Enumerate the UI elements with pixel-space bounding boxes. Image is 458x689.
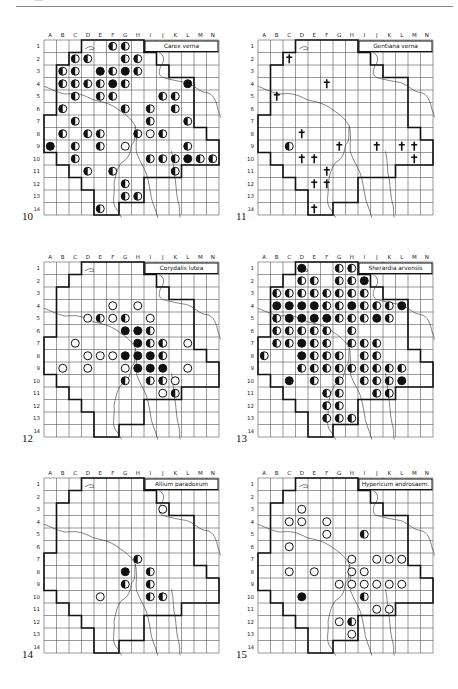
svg-text:2: 2 xyxy=(37,278,41,284)
svg-text:14: 14 xyxy=(248,428,254,434)
species-label: Corydalis lutea xyxy=(160,265,204,272)
half-record-marker xyxy=(310,277,318,285)
distribution-map-allium-paradoxum: ABCDEFGHIJKLMN1234567891011121314Allium … xyxy=(44,469,244,669)
half-record-marker xyxy=(159,593,167,601)
open-record-marker xyxy=(134,302,142,310)
open-record-marker xyxy=(323,530,331,538)
distribution-map-gentiana-verna: ABCDEFGHIJKLMN1234567891011121314Gentian… xyxy=(258,31,458,231)
svg-text:D: D xyxy=(300,470,304,476)
grid-map: ABCDEFGHIJKLMN1234567891011121314Gentian… xyxy=(258,31,438,226)
half-record-marker xyxy=(348,289,356,297)
open-record-marker xyxy=(84,352,92,360)
half-record-marker xyxy=(109,92,117,100)
half-record-marker xyxy=(146,155,154,163)
svg-text:11: 11 xyxy=(247,390,254,396)
distribution-map-carex-verna: ABCDEFGHIJKLMN1234567891011121314Carex v… xyxy=(44,31,244,231)
half-record-marker xyxy=(96,130,104,138)
half-record-marker xyxy=(134,192,142,200)
distribution-map-corydalis-lutea: ABCDEFGHIJKLMN1234567891011121314Corydal… xyxy=(44,253,244,453)
svg-text:11: 11 xyxy=(247,606,254,612)
svg-text:E: E xyxy=(99,254,103,260)
svg-text:K: K xyxy=(387,254,391,260)
species-label: Sherardia arvensis xyxy=(368,265,422,271)
cross-record-marker xyxy=(411,154,417,163)
svg-text:M: M xyxy=(198,32,203,38)
svg-text:C: C xyxy=(73,470,77,476)
full-record-marker xyxy=(373,314,381,322)
species-label: Gentiana verna xyxy=(373,43,418,49)
full-record-marker xyxy=(121,568,129,576)
half-record-marker xyxy=(335,389,343,397)
svg-text:I: I xyxy=(363,32,365,38)
svg-text:N: N xyxy=(425,254,429,260)
open-record-marker xyxy=(109,302,117,310)
full-record-marker xyxy=(273,302,281,310)
svg-text:H: H xyxy=(350,32,354,38)
svg-text:6: 6 xyxy=(37,328,41,334)
svg-text:L: L xyxy=(400,254,404,260)
figure-number: 12 xyxy=(22,432,33,444)
half-record-marker xyxy=(146,568,154,576)
half-record-marker xyxy=(385,377,393,385)
half-record-marker xyxy=(373,352,381,360)
half-record-marker xyxy=(335,289,343,297)
svg-text:12: 12 xyxy=(247,403,254,409)
half-record-marker xyxy=(146,377,154,385)
half-record-marker xyxy=(348,414,356,422)
half-record-marker xyxy=(373,339,381,347)
cross-record-marker xyxy=(311,179,317,188)
open-record-marker xyxy=(385,605,393,613)
svg-text:12: 12 xyxy=(33,181,40,187)
half-record-marker xyxy=(310,377,318,385)
full-record-marker xyxy=(96,67,104,75)
open-record-marker xyxy=(184,364,192,372)
svg-text:D: D xyxy=(86,470,90,476)
distribution-map-hypericum-androsaemum: ABCDEFGHIJKLMN1234567891011121314Hyperic… xyxy=(258,469,458,669)
svg-text:7: 7 xyxy=(251,340,255,346)
svg-text:7: 7 xyxy=(37,118,41,124)
cross-record-marker xyxy=(336,142,342,151)
svg-text:1: 1 xyxy=(251,43,255,49)
svg-text:1: 1 xyxy=(37,481,41,487)
svg-text:3: 3 xyxy=(251,506,255,512)
half-record-marker xyxy=(335,364,343,372)
svg-text:5: 5 xyxy=(251,315,255,321)
svg-text:11: 11 xyxy=(247,168,254,174)
svg-text:9: 9 xyxy=(251,143,255,149)
svg-text:9: 9 xyxy=(251,581,255,587)
svg-text:F: F xyxy=(325,470,328,476)
half-record-marker xyxy=(96,80,104,88)
half-record-marker xyxy=(59,80,67,88)
full-record-marker xyxy=(310,314,318,322)
svg-text:B: B xyxy=(61,254,65,260)
half-record-marker xyxy=(335,277,343,285)
half-record-marker xyxy=(285,327,293,335)
svg-text:C: C xyxy=(73,32,77,38)
half-record-marker xyxy=(298,277,306,285)
svg-text:L: L xyxy=(400,32,404,38)
svg-text:6: 6 xyxy=(37,544,41,550)
half-record-marker xyxy=(159,92,167,100)
svg-text:14: 14 xyxy=(34,428,40,434)
half-record-marker xyxy=(171,92,179,100)
svg-text:J: J xyxy=(375,254,378,261)
svg-text:13: 13 xyxy=(33,415,40,421)
svg-text:J: J xyxy=(375,32,378,39)
open-record-marker xyxy=(348,580,356,588)
svg-text:J: J xyxy=(161,254,164,261)
half-record-marker xyxy=(59,130,67,138)
svg-text:H: H xyxy=(136,470,140,476)
half-record-marker xyxy=(323,352,331,360)
half-record-marker xyxy=(335,377,343,385)
half-record-marker xyxy=(146,327,154,335)
full-record-marker xyxy=(323,314,331,322)
svg-text:9: 9 xyxy=(37,365,41,371)
half-record-marker xyxy=(360,593,368,601)
species-label: Hypericum androsaem. xyxy=(362,481,430,488)
half-record-marker xyxy=(335,264,343,272)
half-record-marker xyxy=(298,364,306,372)
svg-text:10: 10 xyxy=(33,156,40,162)
grid-map: ABCDEFGHIJKLMN1234567891011121314Sherard… xyxy=(258,253,438,448)
svg-text:A: A xyxy=(262,470,266,476)
half-record-marker xyxy=(310,289,318,297)
